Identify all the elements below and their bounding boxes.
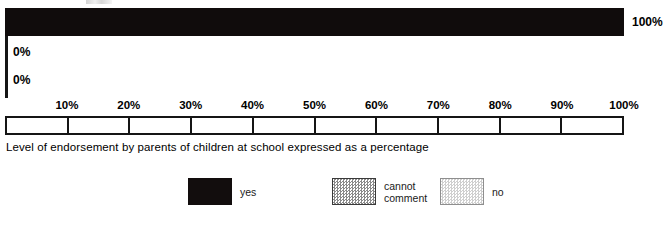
percentage-scale-bar [5, 116, 624, 135]
bar-value-label: 0% [13, 73, 30, 87]
axis-tick-label: 10% [55, 99, 78, 111]
scale-cell [192, 118, 254, 133]
bar-row: 0% [5, 66, 668, 94]
bar-row: 0% [5, 38, 668, 66]
chart-caption: Level of endorsement by parents of child… [6, 141, 429, 153]
bar-value-label: 0% [13, 45, 30, 59]
legend-swatch-yes [188, 178, 232, 205]
scale-cell [254, 118, 316, 133]
scale-cell [377, 118, 439, 133]
scale-cell [316, 118, 378, 133]
axis-tick-label: 40% [241, 99, 264, 111]
axis-tick-label: 70% [427, 99, 450, 111]
scale-cell [439, 118, 501, 133]
scale-cell [562, 118, 622, 133]
scale-cell [501, 118, 563, 133]
legend-swatch-cannot-comment [332, 178, 376, 205]
legend-label-no: no [492, 186, 504, 198]
axis-tick-label: 60% [365, 99, 388, 111]
axis-tick-label: 30% [179, 99, 202, 111]
scale-cell [7, 118, 69, 133]
axis-tick-label: 20% [117, 99, 140, 111]
legend-label-yes: yes [240, 186, 256, 198]
horizontal-bar-chart: 100% 0% 0% 10%20%30%40%50%60%70%80%90%10… [0, 0, 668, 225]
bar-row: 100% [5, 8, 668, 36]
plot-area: 100% 0% 0% [0, 6, 668, 98]
scale-cell [130, 118, 192, 133]
axis-tick-label: 80% [489, 99, 512, 111]
axis-tick-label: 100% [609, 99, 638, 111]
scale-cell [69, 118, 131, 133]
bar-yes [5, 8, 624, 36]
scan-artifact [86, 0, 112, 4]
axis-tick-label: 90% [551, 99, 574, 111]
legend-swatch-no [440, 178, 484, 205]
axis-tick-labels: 10%20%30%40%50%60%70%80%90%100% [0, 99, 668, 113]
legend-label-cannot-comment: cannot comment [384, 180, 427, 204]
axis-tick-label: 50% [303, 99, 326, 111]
bar-value-label: 100% [632, 15, 663, 29]
